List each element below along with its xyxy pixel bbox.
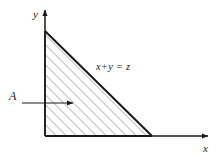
x-axis-label: x [203,143,208,154]
diagram-canvas [0,0,218,163]
equation-label: x+y = z [96,62,130,73]
figure-container: y x A x+y = z [0,0,218,163]
y-axis-label: y [33,9,38,20]
region-label-a: A [9,90,16,102]
